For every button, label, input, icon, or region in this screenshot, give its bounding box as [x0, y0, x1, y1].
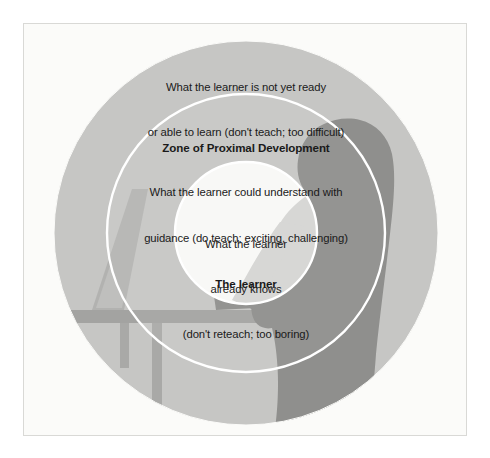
- outer-ring-line-1: What the learner is not yet ready: [24, 80, 467, 95]
- inner-circle-line-3: (don't reteach; too boring): [24, 327, 467, 342]
- chair-post-shape: [312, 420, 326, 436]
- middle-ring-line-1: What the learner could understand with: [24, 185, 467, 200]
- learner-caption: The learner: [24, 276, 467, 291]
- diagram-frame: What the learner is not yet ready or abl…: [23, 23, 467, 436]
- zpd-heading: Zone of Proximal Development: [24, 140, 467, 155]
- diagram-canvas: What the learner is not yet ready or abl…: [0, 0, 490, 458]
- inner-circle-line-1: What the learner: [24, 237, 467, 252]
